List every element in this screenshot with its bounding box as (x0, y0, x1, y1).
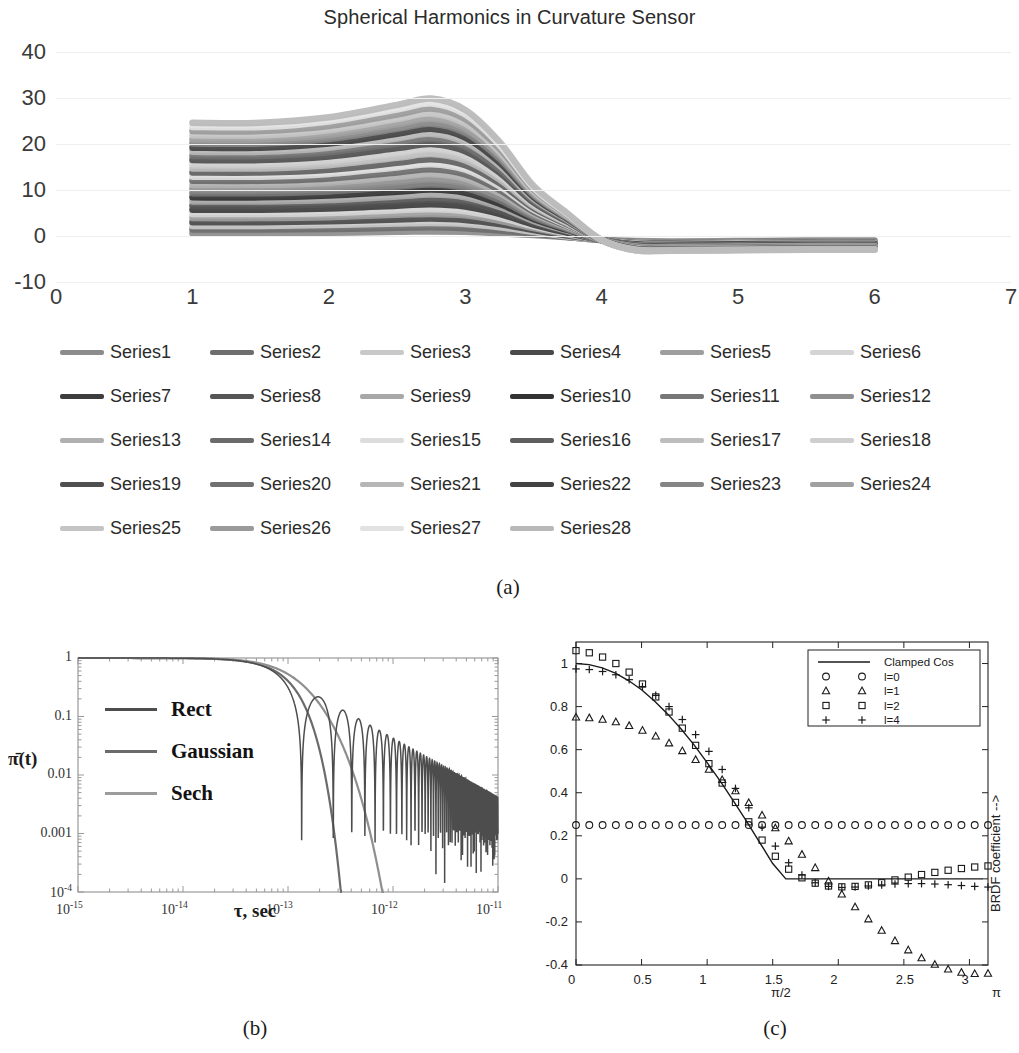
chart-a-legend-item[interactable]: Series14 (210, 430, 360, 451)
chart-a-xtick: 3 (459, 284, 471, 310)
chart-a-legend-item[interactable]: Series1 (60, 342, 210, 363)
chart-a-legend-item[interactable]: Series4 (510, 342, 660, 363)
chart-b-legend-label: Sech (171, 781, 213, 806)
chart-a-legend-swatch (60, 394, 104, 399)
chart-c-marker-circle (679, 822, 686, 829)
chart-a-legend-item[interactable]: Series23 (660, 474, 810, 495)
chart-c-ytick-label: -0.2 (520, 914, 568, 929)
chart-c-marker-triangle (652, 732, 659, 739)
chart-a-legend-label: Series4 (560, 342, 621, 363)
chart-a-legend-item[interactable]: Series22 (510, 474, 660, 495)
chart-b-ytick-label: 10-4 (0, 883, 72, 901)
chart-c-marker-triangle (798, 851, 805, 858)
chart-a-legend-swatch (210, 526, 254, 531)
chart-a-legend-swatch (510, 438, 554, 443)
chart-c-xtick-label: 0 (568, 972, 575, 987)
chart-b-legend-item[interactable]: Rect (105, 688, 254, 730)
chart-b-legend-label: Rect (171, 697, 212, 722)
chart-a-legend-row: Series1Series2Series3Series4Series5Serie… (60, 330, 960, 374)
chart-a-legend-item[interactable]: Series16 (510, 430, 660, 451)
chart-a-legend-label: Series26 (260, 518, 331, 539)
chart-a-legend-swatch (810, 438, 854, 443)
chart-a-legend-item[interactable]: Series2 (210, 342, 360, 363)
chart-c-marker-triangle (984, 970, 991, 977)
caption-a: (a) (433, 575, 583, 600)
chart-c-marker-triangle (626, 722, 633, 729)
chart-a-legend-item[interactable]: Series20 (210, 474, 360, 495)
chart-a-legend-item[interactable]: Series25 (60, 518, 210, 539)
chart-a-gridline (56, 190, 1011, 191)
chart-c-marker-triangle (838, 890, 845, 897)
chart-a-legend-item[interactable]: Series19 (60, 474, 210, 495)
chart-c-ytick-label: 1 (520, 656, 568, 671)
chart-a-legend-label: Series21 (410, 474, 481, 495)
chart-c-xtick-label: 1 (699, 972, 706, 987)
chart-a-legend-row: Series7Series8Series9Series10Series11Ser… (60, 374, 960, 418)
chart-c-marker-triangle (679, 747, 686, 754)
chart-a-legend-swatch (60, 438, 104, 443)
chart-a-legend-item[interactable]: Series11 (660, 386, 810, 407)
chart-c-marker-circle (812, 822, 819, 829)
chart-c-marker-circle (865, 822, 872, 829)
chart-a-ytick: 10 (22, 177, 46, 203)
chart-a-legend-row: Series13Series14Series15Series16Series17… (60, 418, 960, 462)
chart-a-legend-swatch (660, 394, 704, 399)
chart-a-legend-label: Series15 (410, 430, 481, 451)
chart-b-legend-item[interactable]: Gaussian (105, 730, 254, 772)
chart-c-marker-square (626, 669, 632, 675)
chart-a-legend-swatch (60, 350, 104, 355)
chart-c-legend-label: Clamped Cos (884, 656, 954, 668)
chart-a-legend-item[interactable]: Series12 (810, 386, 960, 407)
chart-a-legend-item[interactable]: Series5 (660, 342, 810, 363)
chart-a-legend-item[interactable]: Series17 (660, 430, 810, 451)
caption-c: (c) (700, 1016, 850, 1041)
chart-c-xtick-label: 2.5 (896, 972, 914, 987)
chart-a-gridline (56, 282, 1011, 283)
chart-a-legend-item[interactable]: Series10 (510, 386, 660, 407)
chart-a-legend-item[interactable]: Series3 (360, 342, 510, 363)
chart-c-marker-square (772, 853, 778, 859)
chart-c-canvas: Clamped Cosl=0l=1l=2l=4 (520, 620, 1019, 1020)
chart-a-legend-label: Series23 (710, 474, 781, 495)
chart-b-legend-item[interactable]: Sech (105, 772, 254, 814)
panel-c-brdf: Clamped Cosl=0l=1l=2l=4 00.511.522.5310.… (520, 620, 1019, 1020)
chart-a-xtick: 6 (868, 284, 880, 310)
chart-a-ytick: 40 (22, 39, 46, 65)
chart-a-legend-swatch (660, 438, 704, 443)
chart-a-legend-item[interactable]: Series24 (810, 474, 960, 495)
chart-a-legend-label: Series27 (410, 518, 481, 539)
chart-c-marker-triangle (599, 716, 606, 723)
chart-c-marker-square (932, 869, 938, 875)
chart-a-legend-item[interactable]: Series13 (60, 430, 210, 451)
chart-a-legend-label: Series10 (560, 386, 631, 407)
chart-a-legend-item[interactable]: Series21 (360, 474, 510, 495)
chart-c-marker-square (599, 654, 605, 660)
chart-a-legend-label: Series14 (260, 430, 331, 451)
chart-a-xtick: 5 (732, 284, 744, 310)
chart-c-marker-circle (825, 822, 832, 829)
chart-a-legend-item[interactable]: Series7 (60, 386, 210, 407)
chart-a-ytick: -10 (14, 269, 46, 295)
chart-a-legend-label: Series6 (860, 342, 921, 363)
chart-c-marker-circle (639, 822, 646, 829)
chart-a-legend-swatch (360, 350, 404, 355)
chart-a-legend-swatch (510, 394, 554, 399)
chart-a-legend-item[interactable]: Series26 (210, 518, 360, 539)
chart-a-legend-item[interactable]: Series6 (810, 342, 960, 363)
chart-c-marker-square (945, 867, 951, 873)
chart-a-legend-item[interactable]: Series27 (360, 518, 510, 539)
chart-c-right-axis-label: BRDF coefficient --> (988, 795, 1003, 912)
chart-a-legend-item[interactable]: Series15 (360, 430, 510, 451)
chart-a-legend-label: Series25 (110, 518, 181, 539)
chart-c-marker-circle (626, 822, 633, 829)
chart-a-legend-item[interactable]: Series8 (210, 386, 360, 407)
chart-a-legend-swatch (360, 394, 404, 399)
chart-a-legend-item[interactable]: Series18 (810, 430, 960, 451)
chart-a-legend-label: Series9 (410, 386, 471, 407)
chart-c-marker-circle (892, 822, 899, 829)
chart-a-legend-item[interactable]: Series9 (360, 386, 510, 407)
chart-a-legend-item[interactable]: Series28 (510, 518, 660, 539)
chart-a-legend-label: Series13 (110, 430, 181, 451)
chart-c-ytick-label: 0.4 (520, 785, 568, 800)
chart-c-legend-label: l=2 (884, 700, 900, 712)
